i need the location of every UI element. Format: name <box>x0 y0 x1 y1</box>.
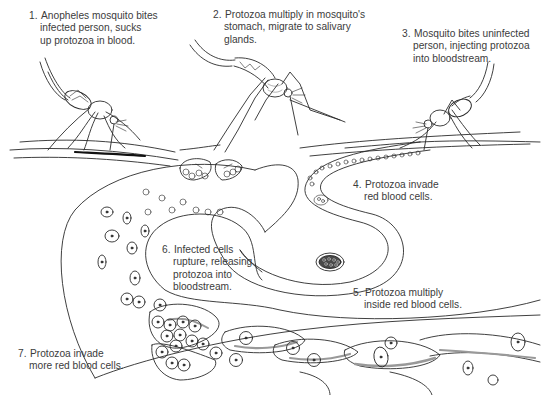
step-4-number: 4. <box>353 179 365 191</box>
step-5-number: 5. <box>353 287 365 299</box>
step-2-line-3: glands. <box>213 34 365 46</box>
step-7-line-2: more red blood cells. <box>18 360 124 372</box>
step-3-line-2: person, injecting protozoa <box>402 40 530 52</box>
step-7-line-1: Protozoa invade <box>30 348 104 359</box>
step-2-line-1: Protozoa multiply in mosquito's <box>225 9 365 20</box>
step-2-line-2: stomach, migrate to salivary <box>213 21 365 33</box>
step-4-label: 4.Protozoa invade red blood cells. <box>353 179 439 204</box>
step-1-line-1: Anopheles mosquito bites <box>41 10 158 21</box>
mosquito-3-icon <box>400 62 494 150</box>
step-6-line-2: rupture, releasing <box>162 256 252 268</box>
step-1-number: 1. <box>29 10 41 22</box>
step-5-line-1: Protozoa multiply <box>365 287 443 298</box>
step-5-label: 5.Protozoa multiply inside red blood cel… <box>353 287 462 312</box>
ruptured-cells <box>143 159 242 215</box>
step-3-line-1: Mosquito bites uninfected <box>414 28 530 39</box>
step-3-line-3: into bloodstream. <box>402 53 530 65</box>
malaria-life-cycle-diagram: 1.Anopheles mosquito bites infected pers… <box>0 0 544 395</box>
step-7-number: 7. <box>18 348 30 360</box>
step-6-line-4: bloodstream. <box>162 281 252 293</box>
step-5-line-2: inside red blood cells. <box>353 299 462 311</box>
blood-vessel-path <box>61 142 540 378</box>
red-blood-cells <box>98 207 540 395</box>
step-6-line-1: Infected cells <box>174 244 233 255</box>
step-6-number: 6. <box>162 244 174 256</box>
step-1-line-3: up protozoa in blood. <box>29 35 158 47</box>
step-6-label: 6.Infected cells rupture, releasing prot… <box>162 244 252 294</box>
step-3-label: 3.Mosquito bites uninfected person, inje… <box>402 28 530 65</box>
step-4-line-2: red blood cells. <box>353 191 439 203</box>
step-3-number: 3. <box>402 28 414 40</box>
mosquito-2-icon <box>190 40 345 152</box>
step-1-line-2: infected person, sucks <box>29 22 158 34</box>
step-1-label: 1.Anopheles mosquito bites infected pers… <box>29 10 158 47</box>
step-2-number: 2. <box>213 9 225 21</box>
step-7-label: 7.Protozoa invade more red blood cells. <box>18 348 124 373</box>
mosquito-1-icon <box>40 58 140 150</box>
infected-cell-multiplying <box>316 253 344 271</box>
step-2-label: 2.Protozoa multiply in mosquito's stomac… <box>213 9 365 46</box>
step-6-line-3: protozoa into <box>162 269 252 281</box>
step-4-line-1: Protozoa invade <box>365 179 439 190</box>
skin-surface-middle <box>180 142 420 150</box>
